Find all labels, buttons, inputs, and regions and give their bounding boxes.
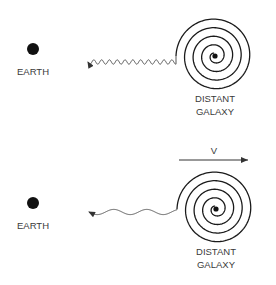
redshift-diagram: EARTH DISTANT GALAXY EARTH V DISTANT GAL…	[0, 0, 276, 285]
galaxy-label-line1: DISTANT	[196, 246, 236, 257]
panel-stationary: EARTH DISTANT GALAXY	[17, 19, 250, 117]
galaxy-core-icon	[213, 206, 218, 211]
light-wave-redshifted	[89, 209, 177, 215]
panel-receding: EARTH V DISTANT GALAXY	[17, 145, 251, 270]
earth-label: EARTH	[17, 220, 49, 231]
light-wave-short	[88, 56, 176, 64]
galaxy-label-line2: GALAXY	[197, 259, 236, 270]
spiral-arm	[176, 19, 250, 88]
galaxy-label-line2: GALAXY	[196, 106, 235, 117]
galaxy-spiral-icon	[177, 172, 251, 241]
galaxy-label-line1: DISTANT	[195, 93, 235, 104]
galaxy-spiral-icon	[176, 19, 250, 88]
earth-icon	[27, 197, 39, 209]
earth-label: EARTH	[17, 66, 49, 77]
earth-icon	[27, 43, 39, 55]
spiral-arm	[177, 172, 251, 241]
galaxy-core-icon	[212, 53, 217, 58]
velocity-label: V	[211, 145, 218, 156]
